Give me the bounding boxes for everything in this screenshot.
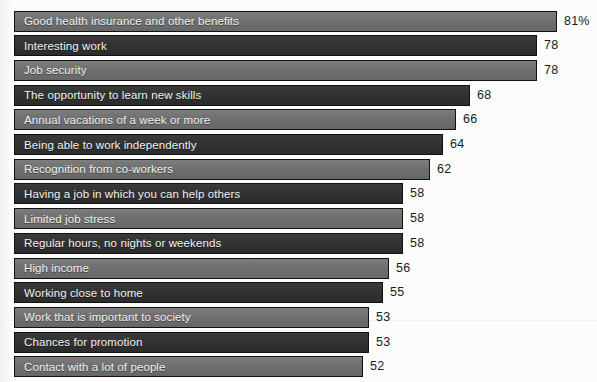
bar-row: Job security78 [0, 59, 597, 84]
bar-value-label: 62 [437, 162, 451, 176]
bar-value-label: 81% [564, 14, 590, 28]
bar-category-label: Job security [15, 64, 87, 76]
bar: High income [14, 258, 389, 279]
bar-category-label: Contact with a lot of people [15, 361, 166, 373]
bar-category-label: Regular hours, no nights or weekends [15, 237, 221, 249]
bar-value-label: 78 [544, 38, 558, 52]
bar-category-label: Having a job in which you can help other… [15, 188, 240, 200]
bar-value-label: 78 [544, 63, 558, 77]
bar-row: Having a job in which you can help other… [0, 182, 597, 207]
bar-row: Annual vacations of a week or more66 [0, 108, 597, 133]
bar-value-label: 58 [410, 236, 424, 250]
bar: Regular hours, no nights or weekends [14, 233, 403, 254]
bar-row: Being able to work independently64 [0, 133, 597, 158]
bar-row: Work that is important to society53 [0, 306, 597, 331]
bar-category-label: Recognition from co-workers [15, 163, 173, 175]
bar: The opportunity to learn new skills [14, 85, 470, 106]
bar: Good health insurance and other benefits [14, 11, 557, 32]
bar-category-label: Work that is important to society [15, 311, 191, 323]
bar-category-label: Limited job stress [15, 213, 115, 225]
bar: Limited job stress [14, 208, 403, 229]
bar: Having a job in which you can help other… [14, 183, 403, 204]
bar: Being able to work independently [14, 134, 443, 155]
bar: Work that is important to society [14, 307, 369, 328]
bar-value-label: 58 [410, 211, 424, 225]
bar-row: Contact with a lot of people52 [0, 355, 597, 380]
bar-row: Limited job stress58 [0, 207, 597, 232]
bar: Job security [14, 60, 537, 81]
bars-area: Good health insurance and other benefits… [0, 0, 597, 382]
bar-category-label: High income [15, 262, 89, 274]
bar-value-label: 52 [370, 359, 384, 373]
horizontal-bar-chart: ···························· Good health… [0, 0, 597, 382]
bar-category-label: Annual vacations of a week or more [15, 114, 210, 126]
bar-row: High income56 [0, 257, 597, 282]
bar-value-label: 55 [390, 285, 404, 299]
bar-value-label: 66 [463, 112, 477, 126]
bar-category-label: The opportunity to learn new skills [15, 89, 201, 101]
bar-row: Working close to home55 [0, 281, 597, 306]
bar: Interesting work [14, 35, 537, 56]
bar-category-label: Being able to work independently [15, 139, 197, 151]
bar: Recognition from co-workers [14, 159, 430, 180]
bar: Annual vacations of a week or more [14, 109, 456, 130]
bar-row: Recognition from co-workers62 [0, 158, 597, 183]
bar-row: Chances for promotion53 [0, 331, 597, 356]
bar-value-label: 53 [376, 310, 390, 324]
bar-value-label: 64 [450, 137, 464, 151]
bar-row: Interesting work78 [0, 34, 597, 59]
bar-category-label: Working close to home [15, 287, 143, 299]
bar-value-label: 58 [410, 186, 424, 200]
bar-row: Good health insurance and other benefits… [0, 10, 597, 35]
bar-category-label: Chances for promotion [15, 336, 142, 348]
bar-value-label: 68 [477, 88, 491, 102]
bar-row: Regular hours, no nights or weekends58 [0, 232, 597, 257]
bar-row: The opportunity to learn new skills68 [0, 84, 597, 109]
bar: Working close to home [14, 282, 383, 303]
bar: Contact with a lot of people [14, 356, 363, 377]
bar-category-label: Interesting work [15, 40, 107, 52]
bar-value-label: 56 [396, 261, 410, 275]
bar-value-label: 53 [376, 335, 390, 349]
bar: Chances for promotion [14, 332, 369, 353]
bar-category-label: Good health insurance and other benefits [15, 15, 239, 27]
